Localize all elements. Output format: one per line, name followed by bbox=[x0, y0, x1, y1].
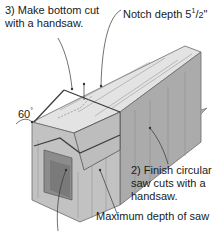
step2-line3: handsaw. bbox=[131, 190, 212, 203]
step2-label: 2) Finish circular saw cuts with a hands… bbox=[131, 164, 212, 203]
step3-line1: 3) Make bottom cut bbox=[5, 4, 99, 17]
notch-depth-text: Notch depth 5 bbox=[123, 8, 192, 20]
notch-mark-right bbox=[201, 108, 207, 114]
notch-depth-numerator: 1 bbox=[192, 7, 196, 14]
notch-depth-unit: " bbox=[203, 8, 207, 20]
step3-line2: with a handsaw. bbox=[5, 17, 99, 30]
angle-unit: ° bbox=[30, 107, 33, 114]
step2-line2: saw cuts with a bbox=[131, 177, 212, 190]
angle-value: 60 bbox=[18, 108, 30, 120]
step2-line1: 2) Finish circular bbox=[131, 164, 212, 177]
diagram-canvas: 3) Make bottom cut with a handsaw. Notch… bbox=[0, 0, 212, 231]
notch-depth-label: Notch depth 51/2" bbox=[123, 4, 207, 22]
angle-label: 60° bbox=[18, 104, 33, 121]
max-depth-label: Maximum depth of saw bbox=[96, 210, 209, 223]
step3-label: 3) Make bottom cut with a handsaw. bbox=[5, 4, 99, 30]
